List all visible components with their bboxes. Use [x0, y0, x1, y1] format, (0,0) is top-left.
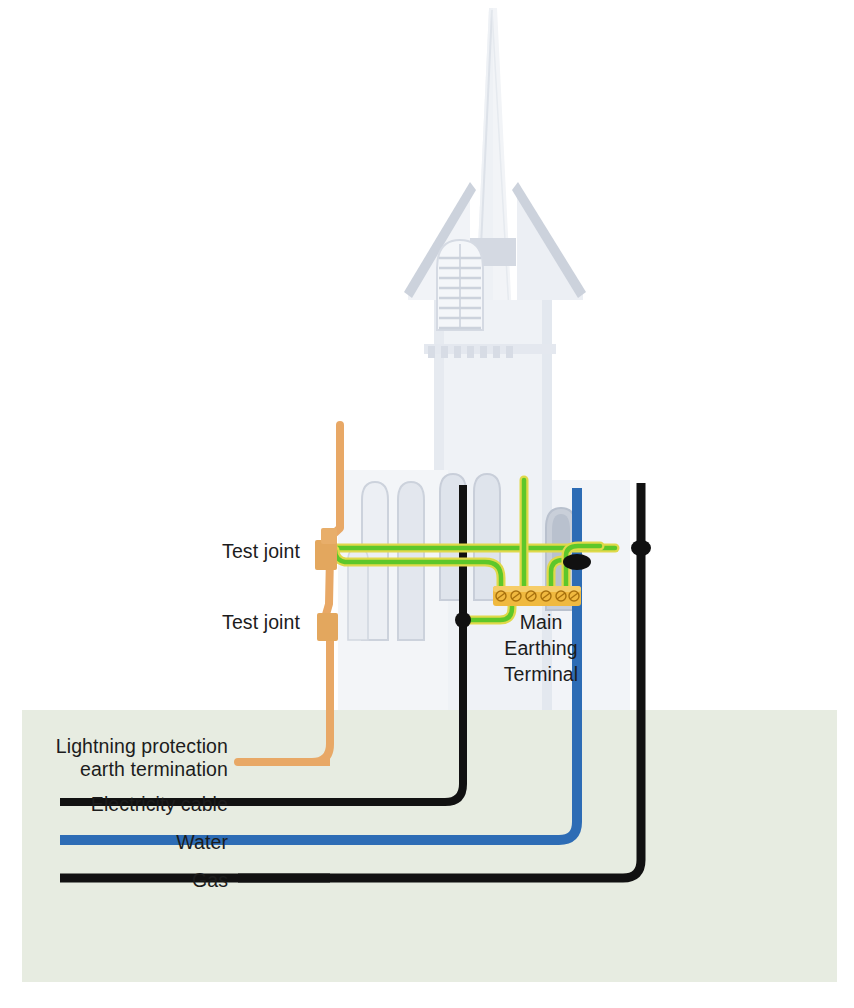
label-main-earthing-terminal-line1: Main	[488, 610, 594, 635]
label-main-earthing-terminal-line3: Terminal	[488, 662, 594, 687]
label-test-joint-lower: Test joint	[150, 610, 300, 635]
clamp-electricity-cable	[455, 612, 471, 628]
label-lightning-protection-line2: earth termination	[20, 757, 228, 782]
earthing-bonding-diagram: Test joint Test joint Main Earthing Term…	[0, 0, 854, 1008]
label-test-joint-upper: Test joint	[150, 539, 300, 564]
label-main-earthing-terminal-line2: Earthing	[488, 636, 594, 661]
clamp-gas-pipe	[631, 540, 651, 556]
test-joint-upper	[315, 528, 337, 570]
test-joint-lower	[317, 613, 338, 641]
label-lightning-protection-line1: Lightning protection	[20, 734, 228, 759]
clamp-water-pipe	[563, 554, 591, 570]
main-earthing-terminal-bar	[493, 586, 581, 606]
diagram-canvas	[0, 0, 854, 1008]
label-water: Water	[20, 830, 228, 855]
label-gas: Gas	[20, 868, 228, 893]
label-electricity-cable: Electricity cable	[20, 792, 228, 817]
belfry-window	[437, 240, 483, 330]
